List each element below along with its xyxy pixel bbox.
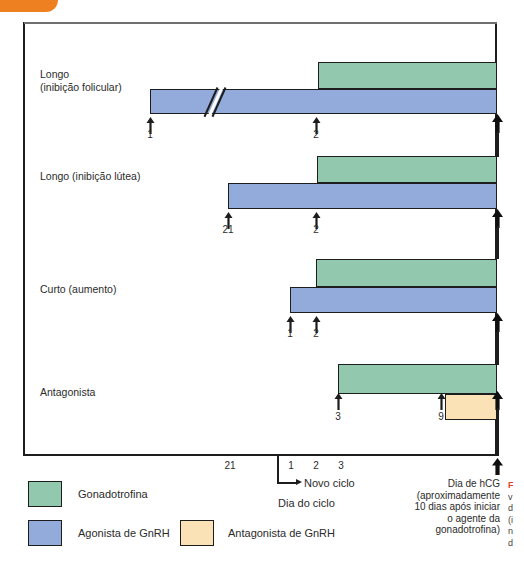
axis-title-dia-do-ciclo: Dia do ciclo [278,497,335,510]
marker-arrow-row4-day9 [437,393,446,410]
marker-label-row2-day2: 2 [305,224,327,235]
axis-new-cycle-vline [277,456,279,484]
marker-label-row1-day1: 1 [139,129,161,140]
axis-arrow-hcg [491,458,504,475]
bar-longo-lutea-agonista [228,183,497,209]
hcg-guide-segment-1 [497,131,499,157]
legend-label-antagonista: Antagonista de GnRH [228,527,335,540]
legend-swatch-antagonista [180,520,214,546]
figure-caption-cropped: F v d (i n d [508,480,524,549]
marker-label-row4-day3: 3 [327,411,349,422]
axis-tick-1: 1 [280,460,302,471]
figure-caption-line-5: d [508,538,524,550]
legend-swatch-gonadotrofina [28,481,62,507]
hcg-guide-segment-2 [497,226,499,259]
marker-label-row1-day2: 2 [305,129,327,140]
axis-label-novo-ciclo: Novo ciclo [304,477,355,490]
axis-tick-3: 3 [330,460,352,471]
hcg-guide-segment-4 [497,408,499,456]
bar-antagonista-antagonista [445,394,497,420]
row-label-longo-lutea: Longo (inibição lútea) [40,170,140,183]
bar-curto-gonadotrofina [316,259,497,287]
hcg-guide-segment-3 [497,330,499,365]
axis-new-cycle-arrowhead [296,479,302,485]
bar-antagonista-gonadotrofina [338,364,497,394]
axis-tick-21: 21 [219,460,241,471]
figure-caption-line-3: (i [508,515,524,527]
row-label-curto-aumento: Curto (aumento) [40,283,116,296]
page-tab-marker [0,0,58,12]
row-label-longo-folicular: Longo (inibição folicular) [40,68,122,94]
bar-longo-folicular-agonista [150,89,497,114]
row-label-antagonista: Antagonista [40,386,95,399]
legend-label-agonista: Agonista de GnRH [78,527,170,540]
hcg-caption: Dia de hCG (aproximadamente 10 dias após… [388,478,500,536]
figure-caption-label: F [508,480,524,492]
bar-curto-agonista [290,287,497,313]
marker-label-row3-day2: 2 [305,328,327,339]
marker-label-row4-day9: 9 [430,411,452,422]
axis-tick-2: 2 [305,460,327,471]
legend-label-gonadotrofina: Gonadotrofina [78,488,148,501]
legend-swatch-agonista [28,520,62,546]
marker-arrow-row4-day3 [334,393,343,410]
marker-label-row2-day21: 21 [217,224,239,235]
bar-longo-folicular-gonadotrofina [318,62,497,89]
figure-caption-line-4: n [508,526,524,538]
axis-new-cycle-hline [277,482,297,484]
chart-frame-top-edge [24,22,497,24]
bar-longo-lutea-gonadotrofina [317,156,497,183]
figure-caption-line-2: d [508,503,524,515]
marker-label-row3-day1: 1 [279,328,301,339]
figure-caption-line-1: v [508,492,524,504]
